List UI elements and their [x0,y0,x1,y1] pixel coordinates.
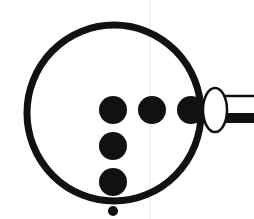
small-dot [108,206,118,216]
dot [177,96,205,124]
dot [99,96,127,124]
connector-ellipse [203,88,227,132]
magnifier-dots-diagram [0,0,254,219]
dot [99,168,127,196]
dot [138,96,166,124]
dot [99,132,127,160]
